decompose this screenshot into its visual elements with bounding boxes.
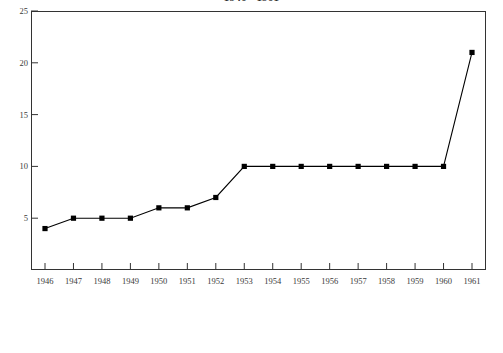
chart-figure: 1946 - 1961 510152025 194619471948194919… xyxy=(0,0,503,353)
x-axis-labels: 1946194719481949195019511952195319541955… xyxy=(0,0,503,353)
x-tick-label: 1961 xyxy=(452,277,492,286)
